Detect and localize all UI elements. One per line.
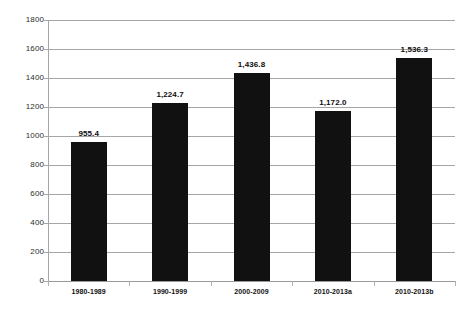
gridline	[48, 281, 455, 282]
bar-value-label: 1,224.7	[135, 91, 205, 99]
y-tick-label: 200	[4, 248, 44, 256]
bar-chart: 020040060080010001200140016001800 1980-1…	[0, 0, 468, 315]
x-category-label: 1980-1989	[49, 288, 129, 295]
x-tick-mark	[211, 281, 212, 286]
y-tick-label: 1000	[4, 132, 44, 140]
bar-value-label: 1,172.0	[298, 99, 368, 107]
bar-value-label: 955.4	[54, 130, 124, 138]
x-tick-mark	[292, 281, 293, 286]
x-category-label: 2010-2013b	[374, 288, 454, 295]
x-tick-mark	[374, 281, 375, 286]
x-category-label: 2000-2009	[212, 288, 292, 295]
y-tick-label: 400	[4, 219, 44, 227]
bar[interactable]	[396, 58, 432, 281]
bar[interactable]	[234, 73, 270, 281]
bar-value-label: 1,436.8	[217, 61, 287, 69]
y-tick-label: 1600	[4, 45, 44, 53]
x-category-label: 1990-1999	[130, 288, 210, 295]
gridline	[48, 20, 455, 21]
y-tick-label: 1200	[4, 103, 44, 111]
bar-value-label: 1,536.3	[379, 46, 449, 54]
y-tick-label: 0	[4, 277, 44, 285]
y-tick-label: 1800	[4, 16, 44, 24]
bar[interactable]	[71, 142, 107, 281]
y-tick-label: 600	[4, 190, 44, 198]
bar[interactable]	[152, 103, 188, 281]
x-tick-mark	[129, 281, 130, 286]
x-tick-mark	[455, 281, 456, 286]
x-category-label: 2010-2013a	[293, 288, 373, 295]
x-tick-mark	[48, 281, 49, 286]
y-tick-label: 800	[4, 161, 44, 169]
y-tick-label: 1400	[4, 74, 44, 82]
bar[interactable]	[315, 111, 351, 281]
